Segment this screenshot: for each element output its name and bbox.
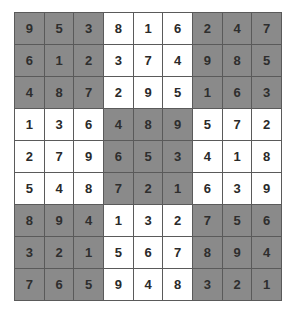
cell-r4c5[interactable]: 8 [134, 109, 163, 140]
cell-r9c3[interactable]: 5 [74, 269, 103, 300]
cell-r7c5[interactable]: 3 [134, 205, 163, 236]
cell-r1c9[interactable]: 7 [252, 13, 281, 44]
cell-r5c2[interactable]: 7 [45, 141, 74, 172]
cell-r3c8[interactable]: 6 [223, 77, 252, 108]
cell-r8c6[interactable]: 7 [163, 237, 192, 268]
cell-r8c4[interactable]: 5 [104, 237, 133, 268]
cell-r5c7[interactable]: 4 [193, 141, 222, 172]
cell-r6c2[interactable]: 4 [45, 173, 74, 204]
sudoku-board: 9 5 3 8 1 6 2 4 7 6 1 2 3 7 4 9 8 5 4 8 … [14, 12, 282, 301]
cell-r8c9[interactable]: 4 [252, 237, 281, 268]
cell-r1c3[interactable]: 3 [74, 13, 103, 44]
cell-r1c1[interactable]: 9 [15, 13, 44, 44]
cell-r8c8[interactable]: 9 [223, 237, 252, 268]
cell-r9c1[interactable]: 7 [15, 269, 44, 300]
cell-r3c6[interactable]: 5 [163, 77, 192, 108]
cell-r8c7[interactable]: 8 [193, 237, 222, 268]
cell-r7c3[interactable]: 4 [74, 205, 103, 236]
cell-r9c6[interactable]: 8 [163, 269, 192, 300]
cell-r8c3[interactable]: 1 [74, 237, 103, 268]
cell-r4c9[interactable]: 2 [252, 109, 281, 140]
cell-r4c7[interactable]: 5 [193, 109, 222, 140]
cell-r2c6[interactable]: 4 [163, 45, 192, 76]
cell-r9c5[interactable]: 4 [134, 269, 163, 300]
cell-r7c7[interactable]: 7 [193, 205, 222, 236]
cell-r4c8[interactable]: 7 [223, 109, 252, 140]
cell-r4c3[interactable]: 6 [74, 109, 103, 140]
cell-r9c4[interactable]: 9 [104, 269, 133, 300]
cell-r2c2[interactable]: 1 [45, 45, 74, 76]
cell-r7c8[interactable]: 5 [223, 205, 252, 236]
cell-r4c1[interactable]: 1 [15, 109, 44, 140]
cell-r2c5[interactable]: 7 [134, 45, 163, 76]
cell-r2c3[interactable]: 2 [74, 45, 103, 76]
cell-r3c3[interactable]: 7 [74, 77, 103, 108]
cell-r3c9[interactable]: 3 [252, 77, 281, 108]
cell-r7c1[interactable]: 8 [15, 205, 44, 236]
cell-r2c4[interactable]: 3 [104, 45, 133, 76]
cell-r1c6[interactable]: 6 [163, 13, 192, 44]
cell-r9c7[interactable]: 3 [193, 269, 222, 300]
cell-r6c8[interactable]: 3 [223, 173, 252, 204]
cell-r5c8[interactable]: 1 [223, 141, 252, 172]
cell-r9c8[interactable]: 2 [223, 269, 252, 300]
cell-r3c1[interactable]: 4 [15, 77, 44, 108]
cell-r9c9[interactable]: 1 [252, 269, 281, 300]
cell-r4c6[interactable]: 9 [163, 109, 192, 140]
cell-r1c2[interactable]: 5 [45, 13, 74, 44]
cell-r7c6[interactable]: 2 [163, 205, 192, 236]
cell-r4c4[interactable]: 4 [104, 109, 133, 140]
cell-r6c6[interactable]: 1 [163, 173, 192, 204]
cell-r8c5[interactable]: 6 [134, 237, 163, 268]
cell-r5c9[interactable]: 8 [252, 141, 281, 172]
cell-r5c1[interactable]: 2 [15, 141, 44, 172]
cell-r7c2[interactable]: 9 [45, 205, 74, 236]
cell-r3c5[interactable]: 9 [134, 77, 163, 108]
cell-r1c8[interactable]: 4 [223, 13, 252, 44]
cell-r3c4[interactable]: 2 [104, 77, 133, 108]
cell-r5c3[interactable]: 9 [74, 141, 103, 172]
cell-r3c2[interactable]: 8 [45, 77, 74, 108]
cell-r6c4[interactable]: 7 [104, 173, 133, 204]
cell-r1c5[interactable]: 1 [134, 13, 163, 44]
cell-r2c1[interactable]: 6 [15, 45, 44, 76]
cell-r1c7[interactable]: 2 [193, 13, 222, 44]
cell-r2c9[interactable]: 5 [252, 45, 281, 76]
cell-r6c5[interactable]: 2 [134, 173, 163, 204]
cell-r9c2[interactable]: 6 [45, 269, 74, 300]
cell-r7c4[interactable]: 1 [104, 205, 133, 236]
cell-r1c4[interactable]: 8 [104, 13, 133, 44]
cell-r5c6[interactable]: 3 [163, 141, 192, 172]
cell-r6c9[interactable]: 9 [252, 173, 281, 204]
cell-r5c5[interactable]: 5 [134, 141, 163, 172]
cell-r2c7[interactable]: 9 [193, 45, 222, 76]
cell-r8c2[interactable]: 2 [45, 237, 74, 268]
cell-r4c2[interactable]: 3 [45, 109, 74, 140]
cell-r5c4[interactable]: 6 [104, 141, 133, 172]
cell-r6c7[interactable]: 6 [193, 173, 222, 204]
cell-r6c3[interactable]: 8 [74, 173, 103, 204]
cell-r6c1[interactable]: 5 [15, 173, 44, 204]
cell-r3c7[interactable]: 1 [193, 77, 222, 108]
cell-r7c9[interactable]: 6 [252, 205, 281, 236]
cell-r8c1[interactable]: 3 [15, 237, 44, 268]
cell-r2c8[interactable]: 8 [223, 45, 252, 76]
